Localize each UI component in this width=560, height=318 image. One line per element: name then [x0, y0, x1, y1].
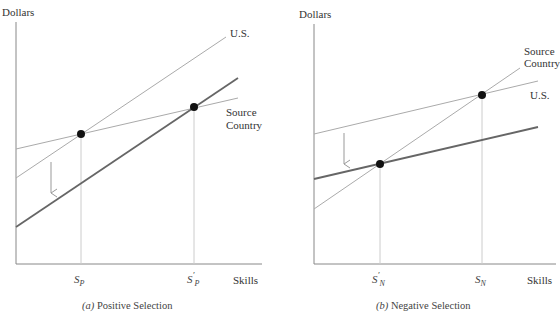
us-line-label: U.S. — [530, 89, 550, 101]
caption-a: (a) Positive Selection — [82, 300, 172, 311]
x-axis-label: Skills — [233, 274, 258, 286]
x-axis-label: Skills — [527, 274, 552, 286]
equilibrium-dot — [376, 160, 384, 168]
source-line-label-2: Country — [524, 57, 560, 69]
tick-sn-prime: S′N — [372, 270, 385, 288]
caption-b: (b) Negative Selection — [376, 300, 470, 311]
tick-sn: SN — [475, 270, 486, 288]
equilibrium-dot — [77, 130, 85, 138]
tick-sp-prime: S′P — [187, 270, 199, 288]
source-country-line — [16, 98, 238, 149]
y-axis-label: Dollars — [2, 6, 34, 18]
source-line-label-2: Country — [226, 119, 262, 131]
source-line-label-1: Source — [524, 45, 555, 57]
shifted-us-line — [16, 78, 238, 227]
panel-b-plot — [314, 24, 556, 264]
equilibrium-dot — [190, 103, 198, 111]
equilibrium-dot — [478, 91, 486, 99]
source-line-label-1: Source — [226, 106, 257, 118]
y-axis-label: Dollars — [299, 8, 331, 20]
us-line — [314, 81, 538, 134]
tick-sp: SP — [74, 270, 84, 288]
shifted-us-line — [314, 127, 538, 179]
us-line-label: U.S. — [230, 27, 250, 39]
panel-a-plot — [16, 22, 262, 264]
